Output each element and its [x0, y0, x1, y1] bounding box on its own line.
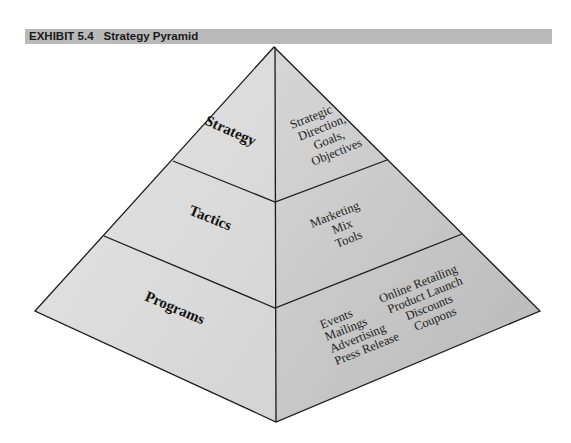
pyramid-left-face [35, 47, 276, 422]
strategy-pyramid: Strategy Tactics Programs Strategic Dire… [0, 0, 571, 443]
pyramid-right-face [275, 47, 540, 422]
